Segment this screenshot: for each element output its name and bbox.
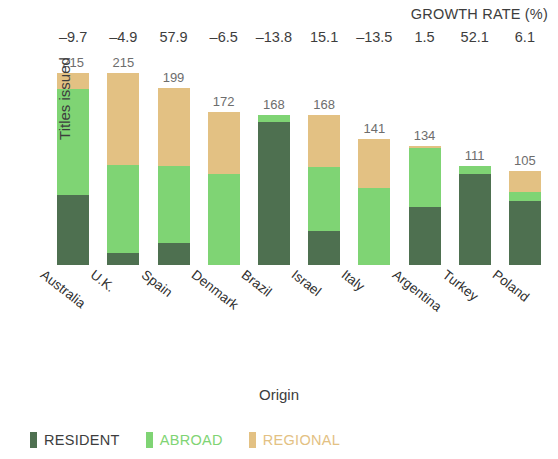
bar-stack xyxy=(459,166,491,265)
bar-segment-regional xyxy=(358,139,390,188)
growth-rate-value: –6.5 xyxy=(210,29,238,45)
bar-total-label: 141 xyxy=(363,121,385,136)
bar-segment-resident xyxy=(107,253,139,265)
x-tick-argentina: Argentina xyxy=(389,267,444,314)
bar-segment-resident xyxy=(258,122,290,265)
bar-group: 141 xyxy=(358,60,390,265)
bar-segment-regional xyxy=(509,171,541,192)
x-tick-uk: U.K. xyxy=(88,267,118,295)
legend-item-abroad[interactable]: ABROAD xyxy=(146,432,223,448)
legend-label: REGIONAL xyxy=(263,432,340,448)
growth-rate-row: –9.7–4.957.9–6.5–13.815.1–13.51.552.16.1 xyxy=(48,29,550,49)
bar-total-label: 134 xyxy=(414,128,436,143)
bar-group: 199 xyxy=(158,60,190,265)
bar-segment-resident xyxy=(409,207,441,265)
growth-rate-value: 1.5 xyxy=(414,29,434,45)
growth-rate-value: 57.9 xyxy=(159,29,187,45)
bar-group: 111 xyxy=(459,60,491,265)
bar-total-label: 215 xyxy=(112,55,134,70)
legend-item-regional[interactable]: REGIONAL xyxy=(249,432,340,448)
bar-stack xyxy=(158,88,190,265)
bar-stack xyxy=(208,112,240,265)
growth-rate-value: 6.1 xyxy=(515,29,535,45)
bar-segment-abroad xyxy=(308,167,340,231)
x-tick-israel: Israel xyxy=(289,267,324,299)
x-tick-poland: Poland xyxy=(490,267,532,305)
chart-legend: RESIDENTABROADREGIONAL xyxy=(30,432,340,448)
bar-stack xyxy=(509,171,541,265)
bar-total-label: 111 xyxy=(465,148,485,163)
bar-segment-abroad xyxy=(258,115,290,122)
bar-total-label: 105 xyxy=(514,153,536,168)
growth-rate-value: 52.1 xyxy=(461,29,489,45)
bar-segment-regional xyxy=(208,112,240,174)
x-axis-tick-labels: AustraliaU.K.SpainDenmarkBrazilIsraelIta… xyxy=(48,267,550,337)
bar-segment-regional xyxy=(107,73,139,165)
x-tick-brazil: Brazil xyxy=(239,267,275,300)
legend-item-resident[interactable]: RESIDENT xyxy=(30,432,120,448)
legend-label: ABROAD xyxy=(160,432,223,448)
bar-group: 172 xyxy=(208,60,240,265)
x-tick-italy: Italy xyxy=(339,267,368,294)
bar-group: 168 xyxy=(308,60,340,265)
bar-segment-regional xyxy=(158,88,190,166)
bar-segment-abroad xyxy=(107,165,139,252)
bar-segment-abroad xyxy=(409,148,441,207)
x-tick-turkey: Turkey xyxy=(439,267,480,304)
stacked-bar-chart: GROWTH RATE (%) –9.7–4.957.9–6.5–13.815.… xyxy=(0,0,558,459)
bar-segment-abroad xyxy=(509,192,541,201)
y-axis-label: Titles issued xyxy=(56,29,73,169)
bar-segment-abroad xyxy=(358,188,390,265)
bar-stack xyxy=(258,115,290,265)
legend-swatch-icon xyxy=(249,432,256,448)
bar-segment-resident xyxy=(509,201,541,265)
bar-segment-resident xyxy=(308,231,340,265)
bar-stack xyxy=(409,146,441,265)
bar-segment-resident xyxy=(459,174,491,265)
growth-rate-value: –13.5 xyxy=(356,29,392,45)
legend-swatch-icon xyxy=(146,432,153,448)
bar-segment-abroad xyxy=(208,174,240,265)
growth-rate-value: 15.1 xyxy=(310,29,338,45)
bar-segment-resident xyxy=(57,195,89,265)
bar-total-label: 168 xyxy=(313,97,335,112)
x-axis-label: Origin xyxy=(0,386,558,403)
legend-swatch-icon xyxy=(30,432,37,448)
bar-segment-regional xyxy=(308,115,340,167)
bar-segment-resident xyxy=(158,243,190,265)
x-tick-denmark: Denmark xyxy=(188,267,240,313)
bar-stack xyxy=(107,73,139,265)
bar-group: 134 xyxy=(409,60,441,265)
growth-rate-title: GROWTH RATE (%) xyxy=(411,6,548,22)
bar-stack xyxy=(358,139,390,265)
bar-total-label: 168 xyxy=(263,97,285,112)
plot-area: 215215199172168168141134111105 xyxy=(48,60,550,265)
bar-stack xyxy=(308,115,340,265)
bar-group: 215 xyxy=(107,60,139,265)
growth-rate-value: –13.8 xyxy=(256,29,292,45)
bar-group: 105 xyxy=(509,60,541,265)
legend-label: RESIDENT xyxy=(44,432,120,448)
bar-segment-abroad xyxy=(158,166,190,243)
x-tick-spain: Spain xyxy=(138,267,174,300)
bar-segment-abroad xyxy=(459,166,491,174)
bar-group: 168 xyxy=(258,60,290,265)
growth-rate-value: –4.9 xyxy=(109,29,137,45)
bar-total-label: 199 xyxy=(163,70,185,85)
bar-total-label: 172 xyxy=(213,94,235,109)
x-tick-australia: Australia xyxy=(38,267,89,311)
